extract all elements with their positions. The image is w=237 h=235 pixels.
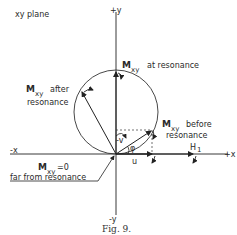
axis-plus-x: +x	[224, 150, 236, 159]
h1-label: H	[190, 143, 196, 152]
axis-minus-y: -y	[109, 215, 117, 224]
plane-label: xy plane	[15, 10, 49, 19]
at-resonance-text: at resonance	[147, 61, 199, 70]
after-resonance-text2: resonance	[27, 98, 69, 107]
rotation-arrow-top	[118, 73, 121, 79]
vector-after-resonance	[82, 92, 116, 154]
before-resonance-M: M	[162, 119, 171, 129]
axis-minus-x: -x	[10, 146, 18, 155]
u-label: u	[132, 157, 137, 166]
before-resonance-text2: resonance	[166, 131, 208, 140]
rotation-arrow-after	[84, 89, 93, 92]
after-resonance-text1: after	[50, 85, 70, 94]
rotation-arrow-u	[152, 156, 155, 163]
phi-angle-arc	[128, 147, 129, 154]
rotation-arrow-h1	[193, 156, 196, 163]
far-resonance-M: M	[38, 162, 47, 172]
at-resonance-M: M	[122, 60, 131, 70]
rotation-arrow-before	[153, 131, 154, 139]
axis-plus-y: +y	[110, 6, 122, 15]
far-resonance-text: far from resonance	[10, 173, 86, 182]
phi-label: φ	[130, 144, 135, 153]
before-resonance-text1: before	[186, 120, 212, 129]
v-label: -v	[116, 136, 124, 145]
far-resonance-eq: =0	[57, 163, 69, 172]
after-resonance-sub: xy	[35, 90, 43, 98]
after-resonance-M: M	[26, 84, 35, 94]
magnetization-diagram: xy plane +y -y +x -x M xy at resonance M…	[0, 0, 237, 235]
at-resonance-sub: xy	[131, 66, 139, 74]
h1-sub: 1	[197, 146, 201, 154]
figure-caption: Fig. 9.	[102, 224, 131, 234]
